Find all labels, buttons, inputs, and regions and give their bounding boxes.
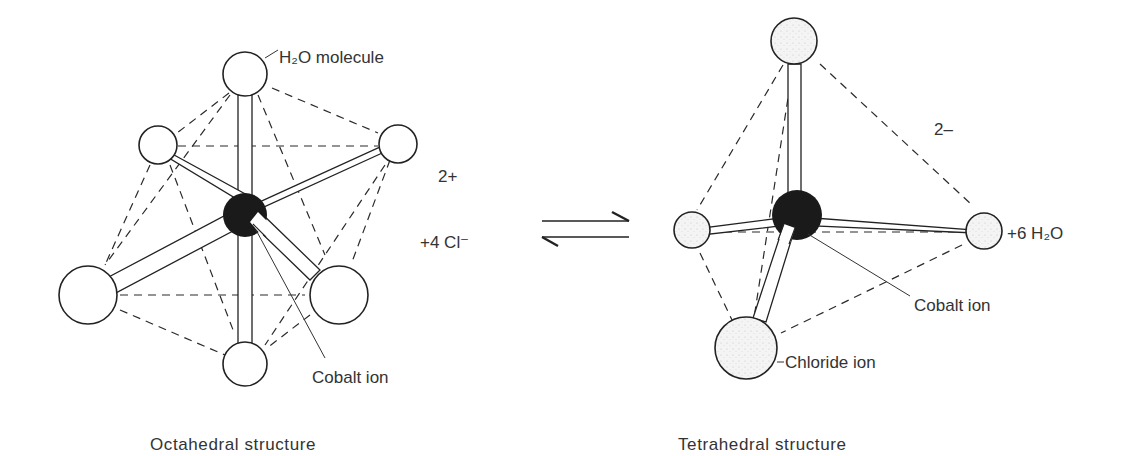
- water-molecule-label: H₂O molecule: [279, 48, 384, 67]
- water-molecule-top: [223, 52, 267, 96]
- chloride-ion-right: [966, 213, 1002, 249]
- water-molecule-back-right: [379, 125, 417, 163]
- equilibrium-diagram: H₂O molecule Cobalt ion 2+ +4 Cl⁻ Octahe…: [0, 0, 1131, 456]
- charge-label-tetrahedral: 2–: [934, 120, 953, 139]
- water-molecule-bottom: [223, 342, 267, 386]
- chloride-ion-front: [715, 317, 777, 379]
- tetrahedral-bonds: [702, 64, 975, 322]
- water-molecule-front-right: [310, 266, 368, 324]
- chloride-ion-label: Chloride ion: [785, 353, 876, 372]
- octahedral-caption: Octahedral structure: [150, 435, 316, 454]
- chloride-ion-top: [771, 18, 817, 64]
- octahedral-structure: H₂O molecule Cobalt ion 2+ +4 Cl⁻ Octahe…: [59, 48, 469, 454]
- cobalt-ion-tetrahedral: [772, 190, 822, 240]
- water-molecule-front-left: [59, 266, 117, 324]
- water-leader-line: [265, 50, 278, 58]
- cobalt-leader-line-tetrahedral: [808, 234, 910, 296]
- chloride-reactant-label: +4 Cl⁻: [420, 233, 469, 252]
- charge-label-octahedral: 2+: [438, 167, 457, 186]
- water-product-label: +6 H₂O: [1007, 224, 1063, 243]
- tetrahedral-structure: 2– +6 H₂O Cobalt ion Chloride ion Tetrah…: [674, 18, 1063, 454]
- tetrahedral-caption: Tetrahedral structure: [678, 435, 847, 454]
- equilibrium-arrow-icon: [542, 212, 629, 246]
- water-molecule-back-left: [139, 126, 177, 164]
- tetrahedron-edges: [697, 64, 972, 333]
- cobalt-ion-label-tetrahedral: Cobalt ion: [914, 296, 991, 315]
- chloride-ion-left: [674, 212, 710, 248]
- cobalt-ion-label-octahedral: Cobalt ion: [312, 368, 389, 387]
